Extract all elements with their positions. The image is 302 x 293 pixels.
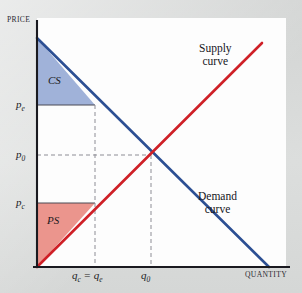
consumer-surplus-label: CS [48,74,61,86]
supply-curve-label-line1: Supply [199,42,232,54]
y-tick-pc: pc [16,196,25,211]
producer-surplus-label: PS [47,214,59,226]
demand-curve-label: Demand curve [198,190,237,215]
y-tick-p0: p0 [16,148,25,163]
x-tick-q0-sub: 0 [147,275,151,284]
x-tick-q0: q0 [141,269,150,284]
y-tick-p0-sub: 0 [22,154,26,163]
x-tick-qc: qc = qe [72,269,103,284]
demand-curve-label-line1: Demand [198,190,237,202]
y-axis-caption: PRICE [7,15,30,24]
y-tick-pe-sub: e [22,104,25,113]
supply-curve-label-line2: curve [199,55,232,68]
supply-curve [37,43,262,267]
demand-curve-label-line2: curve [198,203,237,216]
x-tick-qc-sub2: e [99,275,102,284]
supply-curve-label: Supply curve [199,42,232,67]
supply-demand-figure: PRICE QUANTITY pe p0 pc qc = qe q0 CS PS… [0,0,302,293]
y-tick-pc-sub: c [22,202,25,211]
x-tick-qc-base2: = q [81,269,99,281]
chart-canvas [0,0,302,293]
x-axis-caption: QUANTITY [245,270,287,279]
y-tick-pe: pe [16,98,25,113]
